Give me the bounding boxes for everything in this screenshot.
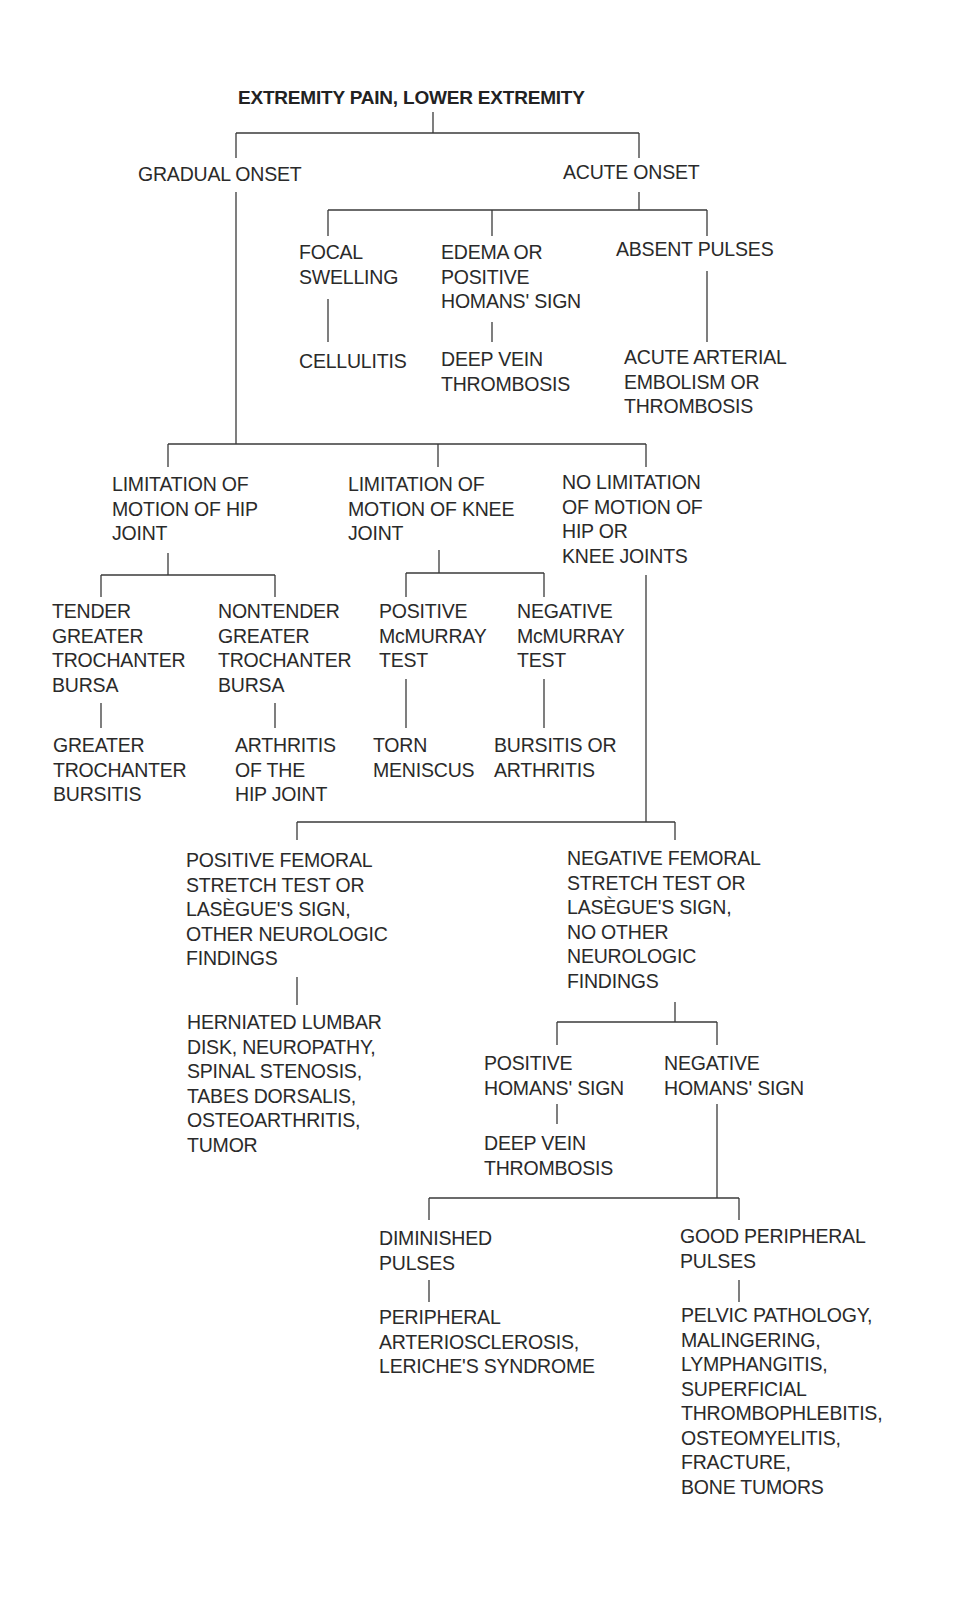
node-positive-femoral-stretch: POSITIVE FEMORAL STRETCH TEST OR LASÈGUE…: [186, 848, 388, 971]
node-negative-mcmurray: NEGATIVE McMURRAY TEST: [517, 599, 624, 673]
node-hip-arthritis: ARTHRITIS OF THE HIP JOINT: [235, 733, 336, 807]
node-edema-homans: EDEMA OR POSITIVE HOMANS' SIGN: [441, 240, 581, 314]
node-limitation-hip: LIMITATION OF MOTION OF HIP JOINT: [112, 472, 258, 546]
node-diminished-pulses: DIMINISHED PULSES: [379, 1226, 492, 1275]
node-deep-vein-thrombosis-2: DEEP VEIN THROMBOSIS: [484, 1131, 613, 1180]
node-limitation-knee: LIMITATION OF MOTION OF KNEE JOINT: [348, 472, 514, 546]
node-herniated-disk: HERNIATED LUMBAR DISK, NEUROPATHY, SPINA…: [187, 1010, 382, 1157]
node-bursitis-arthritis: BURSITIS OR ARTHRITIS: [494, 733, 616, 782]
diagram-title: EXTREMITY PAIN, LOWER EXTREMITY: [238, 86, 585, 111]
node-positive-mcmurray: POSITIVE McMURRAY TEST: [379, 599, 486, 673]
node-positive-homans: POSITIVE HOMANS' SIGN: [484, 1051, 624, 1100]
flowchart: EXTREMITY PAIN, LOWER EXTREMITY GRADUAL …: [0, 0, 967, 1607]
node-negative-femoral-stretch: NEGATIVE FEMORAL STRETCH TEST OR LASÈGUE…: [567, 846, 761, 993]
node-nontender-bursa: NONTENDER GREATER TROCHANTER BURSA: [218, 599, 351, 697]
node-tender-bursa: TENDER GREATER TROCHANTER BURSA: [52, 599, 185, 697]
node-focal-swelling: FOCAL SWELLING: [299, 240, 398, 289]
node-negative-homans: NEGATIVE HOMANS' SIGN: [664, 1051, 804, 1100]
node-cellulitis: CELLULITIS: [299, 349, 406, 374]
node-absent-pulses: ABSENT PULSES: [616, 237, 773, 262]
node-deep-vein-thrombosis-1: DEEP VEIN THROMBOSIS: [441, 347, 570, 396]
node-torn-meniscus: TORN MENISCUS: [373, 733, 474, 782]
node-gradual-onset: GRADUAL ONSET: [138, 162, 302, 187]
node-pelvic-pathology: PELVIC PATHOLOGY, MALINGERING, LYMPHANGI…: [681, 1303, 882, 1499]
node-arterial-embolism: ACUTE ARTERIAL EMBOLISM OR THROMBOSIS: [624, 345, 787, 419]
node-no-limitation: NO LIMITATION OF MOTION OF HIP OR KNEE J…: [562, 470, 703, 568]
node-peripheral-arteriosclerosis: PERIPHERAL ARTERIOSCLEROSIS, LERICHE'S S…: [379, 1305, 595, 1379]
node-trochanter-bursitis: GREATER TROCHANTER BURSITIS: [53, 733, 186, 807]
node-good-pulses: GOOD PERIPHERAL PULSES: [680, 1224, 866, 1273]
node-acute-onset: ACUTE ONSET: [563, 160, 699, 185]
